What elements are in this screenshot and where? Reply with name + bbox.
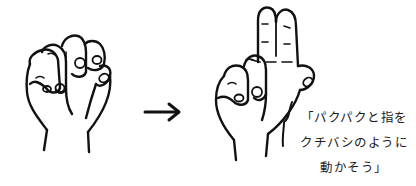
speech-bracket — [283, 102, 292, 146]
fist-hand-icon — [27, 35, 111, 152]
instruction-caption: 「パクパクと指を クチバシのように 動かそう」 — [292, 105, 416, 180]
caption-line-2: クチバシのように — [292, 130, 416, 155]
caption-line-3: 動かそう」 — [292, 155, 416, 180]
arrow-right-icon — [145, 104, 179, 120]
caption-line-1: 「パクパクと指を — [292, 105, 416, 130]
illustration: 「パクパクと指を クチバシのように 動かそう」 — [0, 0, 416, 186]
